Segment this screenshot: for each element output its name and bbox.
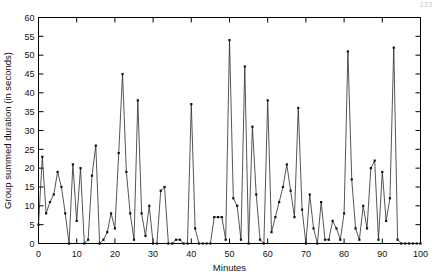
data-point: [37, 224, 39, 226]
y-tick-label: 30: [24, 126, 34, 136]
data-point: [335, 227, 337, 229]
data-point: [370, 167, 372, 169]
data-point: [186, 242, 188, 244]
x-tick-label: 0: [36, 249, 41, 259]
data-point: [251, 126, 253, 128]
data-point: [148, 205, 150, 207]
data-point: [118, 152, 120, 154]
data-point: [408, 242, 410, 244]
data-point: [274, 216, 276, 218]
data-point: [87, 239, 89, 241]
y-axis-title: Group summed duration (in seconds): [2, 52, 13, 209]
data-point: [183, 242, 185, 244]
data-point: [129, 212, 131, 214]
data-point: [316, 242, 318, 244]
data-point: [110, 212, 112, 214]
data-point: [91, 175, 93, 177]
data-point: [393, 47, 395, 49]
data-point: [255, 193, 257, 195]
data-point: [328, 239, 330, 241]
x-tick-label: 30: [148, 249, 158, 259]
data-point: [412, 242, 414, 244]
data-point: [400, 242, 402, 244]
data-point: [270, 231, 272, 233]
data-point: [381, 171, 383, 173]
data-point: [175, 239, 177, 241]
x-tick-label: 40: [186, 249, 196, 259]
data-point: [83, 242, 85, 244]
data-point: [347, 50, 349, 52]
data-point: [49, 201, 51, 203]
x-axis-title: Minutes: [213, 262, 247, 273]
data-point: [68, 242, 70, 244]
data-point: [106, 231, 108, 233]
y-tick-label: 40: [24, 88, 34, 98]
data-point: [366, 227, 368, 229]
data-point: [240, 239, 242, 241]
data-point: [125, 171, 127, 173]
data-point: [95, 144, 97, 146]
data-point: [305, 242, 307, 244]
data-point: [301, 209, 303, 211]
data-point: [198, 242, 200, 244]
data-point: [377, 239, 379, 241]
x-tick-label: 10: [72, 249, 82, 259]
data-point: [152, 242, 154, 244]
data-point: [45, 212, 47, 214]
data-point: [416, 242, 418, 244]
x-tick-label: 70: [301, 249, 311, 259]
data-point: [354, 227, 356, 229]
y-tick-label: 5: [29, 220, 34, 230]
data-point: [141, 212, 143, 214]
data-point: [267, 99, 269, 101]
data-point: [137, 99, 139, 101]
data-point: [320, 201, 322, 203]
data-point: [171, 242, 173, 244]
data-point: [263, 242, 265, 244]
data-point: [236, 205, 238, 207]
data-point: [121, 73, 123, 75]
data-point: [248, 242, 250, 244]
data-point: [278, 201, 280, 203]
data-point: [389, 197, 391, 199]
figure-page: 223 010203040506070809010005101520253035…: [0, 0, 437, 277]
data-point: [179, 239, 181, 241]
y-tick-label: 55: [24, 32, 34, 42]
data-point: [312, 227, 314, 229]
data-point: [419, 242, 421, 244]
data-point: [221, 216, 223, 218]
data-point: [293, 216, 295, 218]
data-point: [290, 190, 292, 192]
data-point: [228, 39, 230, 41]
data-point: [190, 103, 192, 105]
y-tick-label: 0: [29, 239, 34, 249]
x-tick-label: 50: [224, 249, 234, 259]
data-point: [167, 242, 169, 244]
y-tick-label: 45: [24, 69, 34, 79]
data-point: [232, 197, 234, 199]
data-point: [99, 242, 101, 244]
line-chart: 0102030405060708090100051015202530354045…: [0, 0, 437, 277]
y-tick-label: 25: [24, 145, 34, 155]
x-tick-label: 20: [110, 249, 120, 259]
data-point: [102, 239, 104, 241]
data-point: [57, 171, 59, 173]
data-point: [114, 227, 116, 229]
x-tick-label: 100: [413, 249, 428, 259]
y-tick-label: 50: [24, 50, 34, 60]
data-point: [213, 216, 215, 218]
data-point: [205, 242, 207, 244]
data-point: [358, 239, 360, 241]
data-point: [160, 190, 162, 192]
data-point: [53, 193, 55, 195]
data-point: [194, 227, 196, 229]
data-point: [79, 167, 81, 169]
data-point: [225, 239, 227, 241]
data-point: [144, 235, 146, 237]
data-point: [163, 186, 165, 188]
y-tick-label: 35: [24, 107, 34, 117]
data-point: [133, 239, 135, 241]
data-point: [282, 186, 284, 188]
data-point: [156, 242, 158, 244]
y-tick-label: 15: [24, 182, 34, 192]
